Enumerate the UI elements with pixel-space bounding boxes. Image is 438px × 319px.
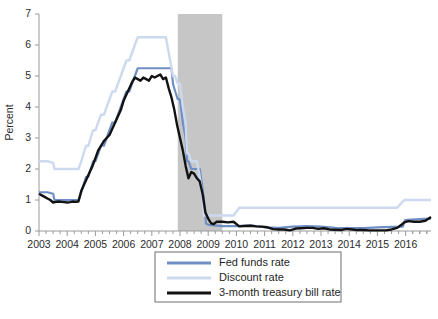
chart-canvas: 0123456720032004200520062007200820092010… — [0, 0, 438, 319]
y-tick-label: 1 — [25, 193, 31, 205]
x-tick-label: 2007 — [140, 238, 164, 250]
x-tick-label: 2013 — [309, 238, 333, 250]
y-tick-label: 4 — [25, 100, 31, 112]
x-tick-label: 2012 — [281, 238, 305, 250]
y-tick-label: 3 — [25, 131, 31, 143]
y-tick-label: 6 — [25, 38, 31, 50]
y-tick-label: 7 — [25, 7, 31, 19]
interest-rates-chart: 0123456720032004200520062007200820092010… — [0, 0, 438, 319]
x-tick-label: 2005 — [84, 238, 108, 250]
x-tick-label: 2008 — [168, 238, 192, 250]
x-tick-label: 2009 — [197, 238, 221, 250]
x-tick-label: 2004 — [56, 238, 80, 250]
y-axis-title: Percent — [3, 104, 15, 140]
x-tick-label: 2006 — [112, 238, 136, 250]
y-tick-label: 0 — [25, 224, 31, 236]
x-tick-label: 2014 — [338, 238, 362, 250]
x-tick-label: 2011 — [253, 238, 276, 250]
chart-legend: Fed funds rateDiscount rate3-month treas… — [155, 252, 341, 302]
x-tick-label: 2010 — [225, 238, 249, 250]
legend-label-3: 3-month treasury bill rate — [219, 286, 341, 298]
x-tick-label: 2016 — [394, 238, 418, 250]
x-tick-label: 2015 — [366, 238, 390, 250]
x-tick-label: 2003 — [27, 238, 51, 250]
legend-label-1: Fed funds rate — [219, 256, 290, 268]
y-tick-label: 2 — [25, 162, 31, 174]
legend-label-2: Discount rate — [219, 271, 284, 283]
y-tick-label: 5 — [25, 69, 31, 81]
